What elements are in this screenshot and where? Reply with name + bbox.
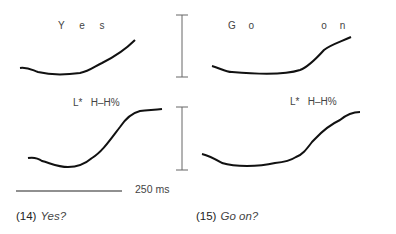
pitch-contour-figure xyxy=(0,0,396,234)
caption-number: (15) xyxy=(196,210,216,222)
tone-label-yes: L* H–H% xyxy=(73,97,120,108)
caption-14: (14)Yes? xyxy=(16,210,66,222)
caption-text: Go on? xyxy=(220,210,258,222)
syllable-label-goon: G o o n xyxy=(228,20,350,31)
caption-text: Yes? xyxy=(40,210,66,222)
syllable-label-yes: Y e s xyxy=(58,20,111,31)
pitch-contour-goon-plain xyxy=(212,37,351,74)
caption-15: (15)Go on? xyxy=(196,210,258,222)
pitch-contour-goon-question xyxy=(202,112,360,166)
tone-label-goon: L* H–H% xyxy=(290,96,337,107)
frequency-scale-bar-bottom xyxy=(176,107,188,170)
frequency-scale-bar-top xyxy=(176,15,188,77)
pitch-contour-yes-plain xyxy=(20,40,135,74)
pitch-contour-yes-question xyxy=(28,109,162,167)
time-scale-label: 250 ms xyxy=(135,183,169,195)
caption-number: (14) xyxy=(16,210,36,222)
